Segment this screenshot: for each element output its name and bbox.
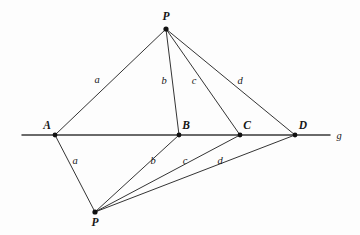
label-segment-d-lower: d: [217, 156, 222, 167]
label-segment-d-upper: d: [237, 76, 242, 87]
label-segment-a-lower: a: [72, 156, 77, 167]
segment-c-lower: [95, 135, 240, 212]
segment-b-lower: [95, 135, 179, 212]
label-point-a: A: [43, 120, 51, 132]
label-segment-c-upper: c: [192, 76, 197, 87]
point-c: [238, 133, 243, 138]
point-d: [293, 133, 298, 138]
geometry-figure: P P A B C D g a b c d a b c d: [0, 0, 360, 235]
label-point-p-top: P: [162, 11, 169, 23]
label-segment-a-upper: a: [94, 75, 99, 86]
point-p-top: [163, 26, 168, 31]
segment-a-lower: [55, 135, 95, 212]
segment-d-lower: [95, 135, 295, 212]
label-segment-c-lower: c: [183, 156, 188, 167]
point-p-bottom: [92, 209, 97, 214]
label-point-b: B: [182, 120, 190, 132]
label-segment-b-lower: b: [150, 156, 155, 167]
segment-a-upper: [55, 29, 166, 135]
label-segment-b-upper: b: [161, 76, 166, 87]
label-point-p-bottom: P: [91, 217, 98, 229]
figure-canvas: [0, 0, 360, 235]
label-line-g: g: [336, 131, 341, 142]
point-b: [177, 133, 182, 138]
label-point-c: C: [243, 120, 251, 132]
label-point-d: D: [299, 120, 307, 132]
point-a: [53, 133, 58, 138]
